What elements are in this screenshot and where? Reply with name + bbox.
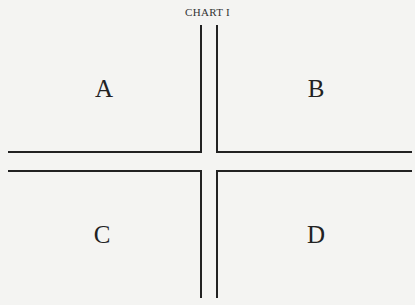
quadrant-label-c: C bbox=[82, 222, 122, 247]
horizontal-line-top-left bbox=[8, 151, 202, 153]
vertical-line-right-bottom bbox=[216, 170, 218, 298]
chart-title: CHART I bbox=[0, 6, 415, 18]
horizontal-line-bottom-right bbox=[216, 170, 412, 172]
vertical-line-left-top bbox=[200, 25, 202, 153]
vertical-line-right-top bbox=[216, 25, 218, 153]
quadrant-label-a: A bbox=[84, 76, 124, 101]
quadrant-label-b: B bbox=[296, 76, 336, 101]
horizontal-line-bottom-left bbox=[8, 170, 202, 172]
horizontal-line-top-right bbox=[216, 151, 412, 153]
quadrant-label-d: D bbox=[296, 222, 336, 247]
vertical-line-left-bottom bbox=[200, 170, 202, 298]
